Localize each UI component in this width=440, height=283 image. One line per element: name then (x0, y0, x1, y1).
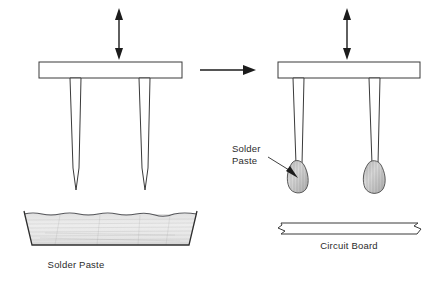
circuit-board-label: Circuit Board (320, 240, 378, 251)
motion-arrow-right-icon (343, 8, 351, 60)
motion-arrow-left-icon (115, 8, 123, 60)
solder-paste-tray-label: Solder Paste (48, 259, 105, 270)
process-arrow-icon (200, 65, 256, 75)
solder-paste-callout-line1: Solder (232, 143, 261, 154)
stage-left-group: Solder Paste (24, 8, 197, 270)
solder-paste-blob-left (287, 159, 308, 195)
solder-paste-process-diagram: Solder Paste (0, 0, 440, 283)
solder-paste-tray (24, 211, 197, 245)
pin-transfer-head-left (39, 62, 182, 190)
circuit-board (278, 223, 421, 234)
solder-paste-blob-right (363, 160, 385, 196)
diagram-root: Solder Paste (0, 0, 440, 283)
stage-right-group: Solder Paste Circuit Board (232, 8, 421, 251)
solder-paste-callout-line2: Paste (232, 155, 257, 166)
